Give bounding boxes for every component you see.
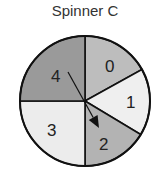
section-label: 2 [99, 135, 108, 154]
section-label: 1 [126, 93, 135, 112]
section-label: 0 [105, 57, 114, 76]
section-label: 4 [51, 67, 60, 86]
spinner: 01234 [0, 0, 161, 180]
section-label: 3 [47, 121, 56, 140]
